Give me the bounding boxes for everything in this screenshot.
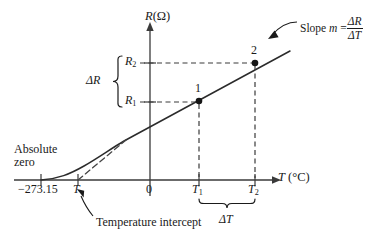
y-axis-label: R(Ω) — [145, 10, 170, 23]
temperature-intercept-label: Temperature intercept — [96, 216, 201, 229]
y-axis — [146, 22, 153, 196]
x-axis-unit: (°C) — [288, 170, 310, 184]
slope-fraction: ΔRΔT — [347, 15, 363, 41]
delta-t-brace — [199, 199, 255, 208]
absolute-zero-line-1: Absolute — [14, 143, 57, 156]
delta-r-label: ΔR — [86, 74, 100, 87]
x-tick-label-t2: T2 — [248, 183, 259, 198]
y-axis-symbol: R — [145, 9, 153, 23]
data-point-2-label: 2 — [251, 44, 257, 57]
slope-numerator: ΔR — [347, 15, 363, 28]
slope-denominator: ΔT — [347, 29, 363, 41]
x-tick-label-t1: T1 — [192, 183, 203, 198]
slope-variable: m — [329, 22, 337, 34]
x-tick-label-zero: 0 — [146, 183, 152, 196]
x-axis-symbol: T — [278, 170, 285, 184]
y-tick-label-r2: R2 — [125, 55, 136, 70]
delta-t-label: ΔT — [219, 213, 233, 226]
y-axis-unit: (Ω) — [153, 9, 171, 23]
x-tick-label-temperature-intercept: T — [73, 183, 80, 196]
delta-r-brace — [113, 56, 122, 107]
point-1-guides — [140, 102, 199, 178]
extrapolation-dashed-line — [78, 140, 126, 180]
x-tick-label-absolute-zero: −273.15 — [18, 183, 58, 196]
y-tick-label-r1: R1 — [125, 94, 136, 109]
slope-prefix: Slope — [300, 22, 326, 34]
data-point-1 — [196, 98, 203, 105]
absolute-zero-line-2: zero — [14, 156, 57, 169]
slope-annotation: Slope m =ΔRΔT — [300, 16, 363, 42]
data-point-1-label: 1 — [195, 82, 201, 95]
x-axis-label: T (°C) — [278, 171, 310, 184]
resistance-curve — [41, 51, 290, 180]
absolute-zero-label: Absolute zero — [14, 143, 57, 168]
physics-diagram-resistance-vs-temperature: R(Ω) T (°C) Slope m =ΔRΔT R2 R1 ΔR 1 2 A… — [0, 0, 391, 243]
data-point-2 — [252, 60, 259, 67]
slope-leader-arrow — [268, 22, 297, 39]
